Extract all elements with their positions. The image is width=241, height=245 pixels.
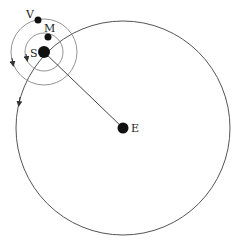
sun-orbit-arrow bbox=[19, 97, 20, 104]
sun-label: S bbox=[30, 47, 38, 60]
venus-body bbox=[35, 17, 42, 24]
earth-label: E bbox=[131, 122, 139, 135]
orbit-diagram: S M V E bbox=[0, 0, 241, 245]
venus-orbit-arrow bbox=[12, 58, 13, 64]
venus-label: V bbox=[25, 8, 35, 21]
mercury-label: M bbox=[44, 22, 55, 35]
sun-body bbox=[38, 46, 50, 58]
sun-earth-line bbox=[44, 52, 123, 128]
earth-body bbox=[118, 123, 129, 134]
